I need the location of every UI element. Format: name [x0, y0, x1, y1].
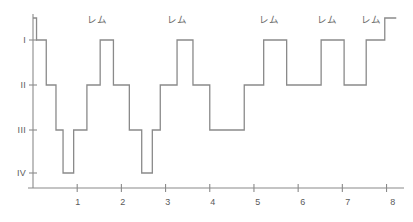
- rem-label: レム: [83, 15, 111, 25]
- y-axis-label-ii: II: [4, 81, 26, 90]
- sleep-stage-line: [33, 18, 396, 173]
- y-axis-label-iv: IV: [4, 169, 26, 178]
- x-axis-label-8: 8: [384, 198, 402, 207]
- axis-ticks: [29, 40, 387, 192]
- hypnogram-chart: IIIIIIIV 12345678 レムレムレムレムレム: [0, 0, 413, 222]
- y-axis-label-iii: III: [4, 126, 26, 135]
- x-axis-label-4: 4: [204, 198, 222, 207]
- x-axis-label-6: 6: [294, 198, 312, 207]
- y-axis-label-i: I: [4, 36, 26, 45]
- rem-label: レム: [255, 15, 283, 25]
- x-axis-label-3: 3: [159, 198, 177, 207]
- chart-axes: [28, 14, 404, 188]
- x-axis-label-2: 2: [114, 198, 132, 207]
- sleep-stage-plot: [0, 0, 413, 222]
- rem-label: レム: [163, 15, 191, 25]
- x-axis-label-1: 1: [69, 198, 87, 207]
- rem-label: レム: [357, 15, 385, 25]
- x-axis-label-7: 7: [339, 198, 357, 207]
- rem-label: レム: [313, 15, 341, 25]
- x-axis-label-5: 5: [249, 198, 267, 207]
